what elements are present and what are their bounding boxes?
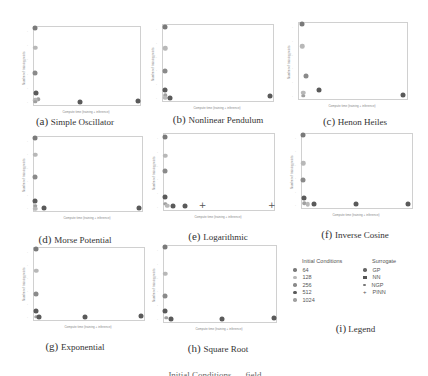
data-point <box>36 314 41 319</box>
panel-caption: (h) Square Root <box>148 342 288 354</box>
marker-dot-icon <box>293 291 297 295</box>
y-tick: · <box>295 164 296 168</box>
y-tick: · <box>157 165 158 169</box>
data-point <box>82 314 87 319</box>
data-point <box>312 202 317 207</box>
y-tick: · <box>27 30 28 34</box>
data-point <box>163 245 168 250</box>
legend-item-256: 256 <box>293 281 342 289</box>
y-tick: · <box>156 56 157 60</box>
y-tick: · <box>295 177 296 181</box>
marker-dot-icon <box>293 298 297 302</box>
y-tick: · <box>295 204 296 208</box>
legend-ic-title: Initial Conditions <box>302 258 342 264</box>
y-axis-label: Number of training points <box>22 51 26 85</box>
legend-item-nn: NN <box>363 274 396 282</box>
plot-area <box>163 133 275 211</box>
plot-area <box>162 24 274 102</box>
data-point <box>34 309 39 314</box>
y-tick: · <box>27 153 28 157</box>
y-tick: · <box>157 178 158 182</box>
data-point <box>33 152 38 157</box>
data-point <box>163 309 168 314</box>
data-point <box>33 26 38 31</box>
y-tick: · <box>27 194 28 198</box>
data-point <box>163 69 168 74</box>
y-tick: · <box>157 263 158 267</box>
data-point <box>163 88 168 93</box>
y-tick: · <box>27 44 28 48</box>
panel-caption: (g) Exponential <box>5 340 145 352</box>
y-tick: · <box>292 40 293 44</box>
data-point <box>163 194 168 199</box>
data-point <box>34 269 39 274</box>
data-point-plus: + <box>199 201 207 210</box>
y-tick: · <box>292 54 293 58</box>
data-point-plus: + <box>268 201 276 210</box>
plot-area <box>33 26 141 106</box>
data-point <box>138 314 143 319</box>
y-tick: · <box>295 137 296 141</box>
data-point <box>220 316 225 321</box>
y-tick: · <box>157 137 158 141</box>
data-point <box>33 136 38 141</box>
data-point <box>33 100 37 104</box>
data-point <box>301 133 306 138</box>
data-point <box>163 169 168 174</box>
data-point <box>163 293 168 298</box>
y-tick: · <box>156 69 157 73</box>
data-point <box>41 205 46 210</box>
y-tick: · <box>157 206 158 210</box>
legend-surrogate: Surrogate GP NN NGP +PINN <box>363 258 396 296</box>
data-point <box>405 202 410 207</box>
legend-item-gp: GP <box>363 266 396 274</box>
y-tick: · <box>292 67 293 71</box>
data-point <box>163 46 168 51</box>
legend-initial-conditions: Initial Conditions 64 128 256 512 1024 <box>293 258 342 304</box>
x-axis-label: Compute time (training + inference) <box>33 325 143 329</box>
y-tick: · <box>27 277 28 281</box>
plot-area <box>163 245 277 323</box>
data-point <box>163 154 168 159</box>
y-axis-label: Number of training points <box>22 267 26 301</box>
y-axis-label: Number of training points <box>290 155 294 189</box>
y-tick: · <box>295 150 296 154</box>
y-axis-label: Number of training points <box>22 158 26 192</box>
data-point <box>301 161 306 166</box>
y-axis-label: Number of training points <box>151 47 155 81</box>
y-tick: · <box>27 207 28 211</box>
square-marker-icon <box>363 276 367 280</box>
data-point <box>302 94 306 98</box>
data-point <box>267 94 272 99</box>
y-tick: · <box>295 191 296 195</box>
y-tick: · <box>27 290 28 294</box>
y-tick: · <box>27 101 28 105</box>
y-axis-label: Number of training points <box>287 45 291 79</box>
data-point <box>34 247 39 252</box>
legend-item-ngp: NGP <box>363 281 396 289</box>
y-tick: · <box>292 81 293 85</box>
data-point <box>135 98 140 103</box>
y-tick: · <box>157 304 158 308</box>
data-point <box>33 46 38 51</box>
data-point <box>136 205 141 210</box>
marker-dot-icon <box>293 283 297 287</box>
panel-caption: (a) Simple Oscillator <box>5 115 145 127</box>
x-axis-label: Compute time (training + inference) <box>301 213 411 217</box>
plot-area <box>301 133 413 209</box>
data-point <box>170 203 175 208</box>
legend-caption: (i) Legend <box>293 322 418 334</box>
plot-area <box>33 136 143 212</box>
marker-dot-icon <box>293 268 297 272</box>
data-point <box>34 291 39 296</box>
y-tick: · <box>292 95 293 99</box>
plot-area <box>33 247 145 321</box>
data-point <box>33 70 38 75</box>
y-tick: · <box>156 42 157 46</box>
data-point <box>167 95 172 100</box>
data-point <box>163 134 168 139</box>
y-tick: · <box>27 73 28 77</box>
y-tick: · <box>27 167 28 171</box>
y-tick: · <box>157 318 158 322</box>
data-point <box>303 73 308 78</box>
